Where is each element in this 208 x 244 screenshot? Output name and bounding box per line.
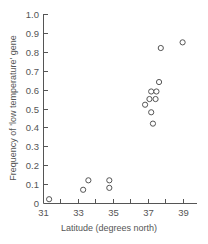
data-point [81,187,86,192]
scatter-chart: 00.10.20.30.40.50.60.70.80.91.0 31333537… [0,0,208,244]
x-tick-label: 31 [38,207,49,218]
y-tick-label: 0.2 [26,160,39,171]
data-point [149,89,154,94]
y-axis-title: Frequency of 'low temperature' gene [8,35,18,181]
y-tick-label: 0.3 [26,141,39,152]
y-axis-ticks: 00.10.20.30.40.50.60.70.80.91.0 [26,9,48,209]
data-point [154,89,159,94]
y-tick-label: 0.6 [26,85,39,96]
data-points [47,40,186,202]
y-tick-label: 0.8 [26,47,39,58]
data-point [107,185,112,190]
data-point [147,96,152,101]
data-point [180,40,185,45]
x-tick-label: 35 [108,207,119,218]
y-tick-label: 0.7 [26,66,39,77]
data-point [107,178,112,183]
data-point [149,110,154,115]
x-tick-label: 33 [73,207,84,218]
y-tick-label: 1.0 [26,9,39,20]
y-tick-label: 0.9 [26,28,39,39]
data-point [158,45,163,50]
data-point [47,197,52,202]
x-axis-ticks: 3133353739 [38,199,189,218]
data-point [142,102,147,107]
data-point [156,79,161,84]
data-point [153,96,158,101]
axes [44,14,198,204]
data-point [86,178,91,183]
x-axis-title: Latitude (degrees north) [61,223,157,233]
y-tick-label: 0.4 [26,122,39,133]
x-tick-label: 37 [143,207,154,218]
y-tick-label: 0.1 [26,179,39,190]
x-tick-label: 39 [178,207,189,218]
y-tick-label: 0.5 [26,104,39,115]
data-point [150,121,155,126]
